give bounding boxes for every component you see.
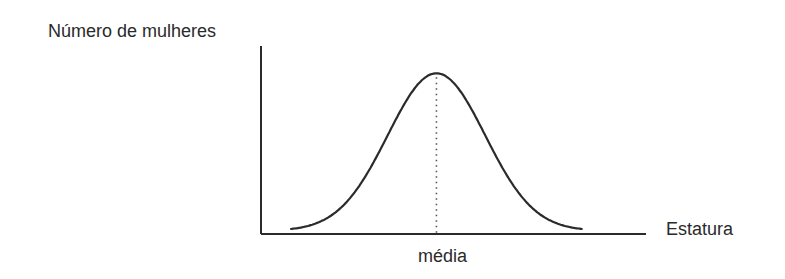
bell-curve-chart xyxy=(0,0,785,279)
bell-curve-series xyxy=(290,73,582,229)
